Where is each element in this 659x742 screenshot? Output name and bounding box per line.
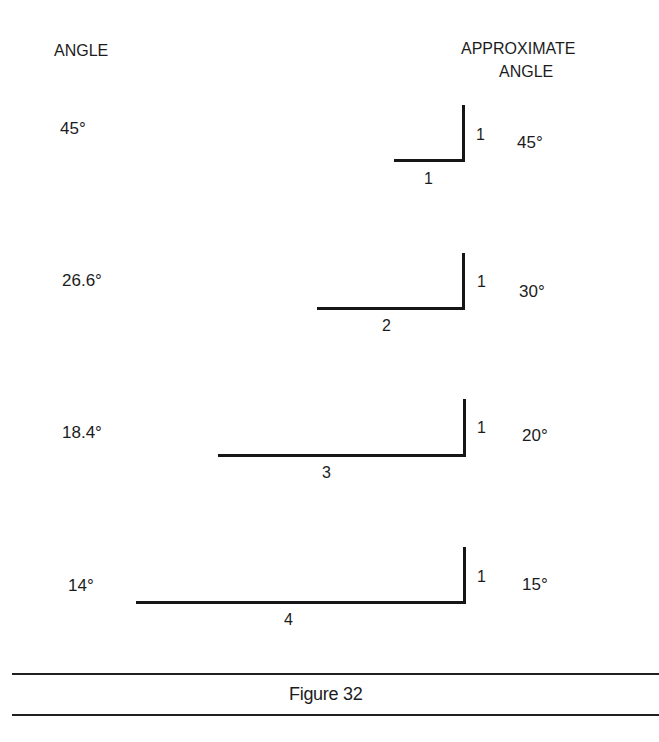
- exact-angle: 18.4°: [62, 424, 102, 441]
- caption-bottom-rule: [12, 714, 659, 716]
- header-approximate: APPROXIMATE: [461, 41, 575, 57]
- rise-line: [463, 547, 466, 604]
- run-label: 2: [382, 318, 391, 334]
- approx-angle: 30°: [519, 283, 545, 300]
- angle-figure: ANGLE APPROXIMATE ANGLE 45° 1 1 45° 26.6…: [0, 0, 659, 742]
- rise-label: 1: [477, 420, 486, 436]
- rise-label: 1: [476, 127, 485, 143]
- approx-angle: 15°: [522, 576, 548, 593]
- caption-top-rule: [12, 673, 659, 675]
- run-line: [394, 159, 465, 162]
- rise-line: [462, 105, 465, 162]
- rise-line: [463, 399, 466, 457]
- header-angle: ANGLE: [54, 43, 108, 59]
- run-line: [317, 307, 465, 310]
- run-line: [136, 601, 466, 604]
- rise-line: [462, 253, 465, 310]
- approx-angle: 45°: [517, 134, 543, 151]
- exact-angle: 14°: [68, 577, 94, 594]
- approx-angle: 20°: [522, 427, 548, 444]
- run-label: 1: [424, 171, 433, 187]
- header-approximate-angle: ANGLE: [499, 64, 553, 80]
- rise-label: 1: [477, 274, 486, 290]
- run-line: [218, 454, 466, 457]
- figure-caption: Figure 32: [289, 685, 362, 703]
- run-label: 4: [284, 612, 293, 628]
- exact-angle: 45°: [60, 120, 86, 137]
- run-label: 3: [322, 465, 331, 481]
- rise-label: 1: [477, 569, 486, 585]
- exact-angle: 26.6°: [62, 272, 102, 289]
